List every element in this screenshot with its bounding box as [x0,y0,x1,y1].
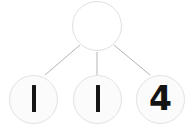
child-node-3-label: 4 [149,82,172,115]
number-bond-diagram: 1 1 4 [0,0,194,129]
child-node-1-label: 1 [32,85,36,112]
child-node-2[interactable]: 1 [73,75,122,124]
parent-node[interactable] [72,1,122,51]
child-node-2-label: 1 [96,85,100,112]
child-node-3[interactable]: 4 [136,75,185,124]
edge-parent-to-child-3 [114,45,150,75]
child-node-1[interactable]: 1 [9,75,58,124]
edge-parent-to-child-1 [45,45,80,75]
